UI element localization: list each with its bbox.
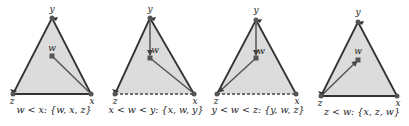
caption-diagram-2: x < w < y: {x, w, y} [109, 104, 204, 115]
vertex-y [254, 18, 259, 23]
label-w: w [151, 45, 159, 55]
caption-diagram-3: y < w < z: {y, w, z} [211, 104, 304, 115]
vertex-y [50, 16, 55, 21]
triangle-diagram-3: y w z x [213, 5, 300, 106]
triangle-diagram-2: y w z x [112, 4, 198, 106]
caption-diagram-4: z < w: {x, z, w} [324, 106, 400, 117]
label-y: y [354, 7, 361, 17]
vertex-w [356, 58, 361, 63]
label-w: w [48, 43, 56, 53]
vertex-w [50, 54, 55, 59]
label-y: y [252, 5, 259, 15]
vertex-y [148, 16, 153, 21]
triangle-diagram-1: y w z x [9, 4, 95, 106]
label-y: y [48, 4, 55, 14]
label-w: w [257, 46, 265, 56]
caption-diagram-1: w < x: {w, x, z} [16, 104, 91, 115]
label-y: y [146, 4, 153, 14]
label-z: z [9, 96, 15, 106]
label-z: z [317, 98, 323, 108]
label-w: w [354, 46, 362, 56]
vertex-w [254, 56, 259, 61]
vertex-y [356, 20, 361, 25]
triangle-fill [115, 18, 194, 94]
triangle-diagram-4: y w z x [317, 7, 401, 108]
vertex-w [148, 56, 153, 61]
